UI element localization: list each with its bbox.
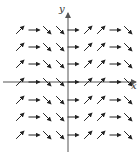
slope-arrow-up-right — [84, 43, 92, 51]
slope-arrow-down-right — [56, 26, 64, 34]
slope-arrow-up-right — [16, 113, 24, 121]
slope-arrow-up-right — [16, 96, 24, 104]
slope-arrow-up-right — [16, 26, 24, 34]
slope-arrow-down-right — [56, 43, 64, 51]
slope-arrow-up-right — [16, 131, 24, 139]
slope-arrow-down-right — [56, 96, 64, 104]
slope-arrow-down-right — [124, 131, 132, 139]
slope-arrow-down-right — [124, 60, 132, 68]
slope-arrow-up-right — [84, 96, 92, 104]
slope-arrow-up-right — [84, 131, 92, 139]
slope-arrow-up-right — [97, 113, 105, 121]
slope-arrow-down-right — [43, 43, 51, 51]
slope-arrow-up-right — [84, 26, 92, 34]
slope-arrow-down-right — [124, 43, 132, 51]
slope-arrow-up-right — [97, 26, 105, 34]
slope-arrow-down-right — [43, 26, 51, 34]
slope-arrow-down-right — [56, 131, 64, 139]
slope-arrow-down-right — [56, 60, 64, 68]
slope-arrow-up-right — [97, 131, 105, 139]
slope-arrow-down-right — [43, 60, 51, 68]
slope-arrow-up-right — [84, 60, 92, 68]
slope-arrows — [16, 26, 132, 139]
slope-arrow-up-right — [84, 113, 92, 121]
slope-arrow-up-right — [16, 60, 24, 68]
slope-arrow-up-right — [97, 96, 105, 104]
slope-arrow-down-right — [56, 113, 64, 121]
slope-arrow-down-right — [124, 113, 132, 121]
slope-arrow-down-right — [43, 113, 51, 121]
slope-arrow-up-right — [97, 43, 105, 51]
slope-arrow-down-right — [124, 96, 132, 104]
y-axis-label: y — [58, 3, 65, 14]
slope-arrow-down-right — [43, 96, 51, 104]
slope-arrow-up-right — [16, 43, 24, 51]
direction-field-diagram: x y — [0, 0, 138, 154]
slope-arrow-up-right — [97, 60, 105, 68]
slope-arrow-down-right — [43, 131, 51, 139]
slope-arrow-down-right — [124, 26, 132, 34]
